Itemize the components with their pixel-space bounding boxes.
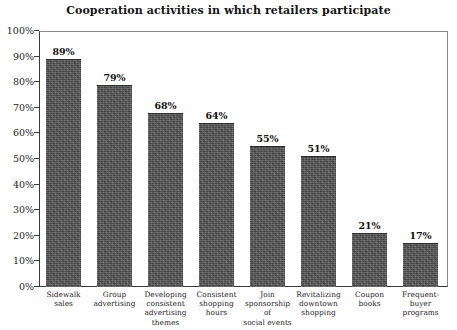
bar-chart: Cooperation activities in which retailer… [0,0,457,330]
x-axis-category-label: Couponbooks [343,290,396,308]
x-axis-category-line: themes [139,318,192,327]
bar-group[interactable]: 64% [199,31,234,287]
bar[interactable] [97,85,132,287]
x-axis-category-label: Frequent-buyerprograms [394,290,447,318]
x-axis-category-line: sponsorship [241,299,294,308]
x-axis-category-line: buyer [394,299,447,308]
y-axis-tick-label: 40% [0,179,34,191]
x-axis-category-line: hours [190,308,243,317]
y-axis-tick-label: 90% [0,51,34,63]
bar[interactable] [148,113,183,287]
bar-group[interactable]: 55% [250,31,285,287]
y-axis-tick-label: 100% [0,25,34,37]
x-axis-category-label: Revitalizingdowntownshopping [292,290,345,318]
y-axis-tick-label: 80% [0,76,34,88]
x-axis-category-line: advertising [88,299,141,308]
y-axis-tick-label: 30% [0,204,34,216]
x-axis-category-line: Developing [139,290,192,299]
bar-group[interactable]: 79% [97,31,132,287]
x-axis-category-line: shopping [190,299,243,308]
x-axis-category-line: downtown [292,299,345,308]
bar-value-label: 79% [88,72,141,83]
x-axis-category-label: Developingconsistentadvertisingthemes [139,290,192,327]
bar-group[interactable]: 51% [301,31,336,287]
bar-group[interactable]: 17% [403,31,438,287]
y-axis: 0%10%20%30%40%50%60%70%80%90%100% [0,31,34,287]
x-axis-category-line: Revitalizing [292,290,345,299]
x-axis-category-line: Group [88,290,141,299]
bar-value-label: 64% [190,110,243,121]
bar-value-label: 89% [37,46,90,57]
bar-value-label: 55% [241,133,294,144]
x-axis-category-line: Sidewalk [37,290,90,299]
bar-value-label: 51% [292,143,345,154]
bar-group[interactable]: 89% [46,31,81,287]
x-axis-category-label: Consistentshoppinghours [190,290,243,318]
y-axis-tick-label: 20% [0,230,34,242]
x-axis-category-line: advertising [139,308,192,317]
bar-value-label: 68% [139,100,192,111]
bar-group[interactable]: 21% [352,31,387,287]
x-axis-category-line: Join [241,290,294,299]
bar-group[interactable]: 68% [148,31,183,287]
bar[interactable] [403,243,438,287]
bar[interactable] [352,233,387,287]
y-axis-tick-label: 50% [0,153,34,165]
bar-value-label: 21% [343,220,396,231]
x-axis: SidewalksalesGroupadvertisingDevelopingc… [39,290,448,330]
x-axis-category-line: sales [37,299,90,308]
bar-value-label: 17% [394,230,447,241]
x-axis-category-line: Consistent [190,290,243,299]
x-axis-category-label: Sidewalksales [37,290,90,308]
x-axis-category-line: consistent [139,299,192,308]
x-axis-category-line: of [241,308,294,317]
y-axis-tick-label: 60% [0,127,34,139]
y-axis-tick-label: 10% [0,255,34,267]
x-axis-category-line: books [343,299,396,308]
bar[interactable] [46,59,81,287]
y-axis-tick-label: 0% [0,281,34,293]
x-axis-category-line: programs [394,308,447,317]
x-axis-category-line: shopping [292,308,345,317]
x-axis-category-label: Joinsponsorshipofsocial events [241,290,294,327]
y-axis-tick-label: 70% [0,102,34,114]
chart-title: Cooperation activities in which retailer… [0,4,457,17]
x-axis-category-line: Frequent- [394,290,447,299]
bar[interactable] [199,123,234,287]
x-axis-category-line: Coupon [343,290,396,299]
bar[interactable] [250,146,285,287]
bar[interactable] [301,156,336,287]
x-axis-category-line: social events [241,318,294,327]
bars-layer: 89%79%68%64%55%51%21%17% [39,31,448,287]
x-axis-category-label: Groupadvertising [88,290,141,308]
